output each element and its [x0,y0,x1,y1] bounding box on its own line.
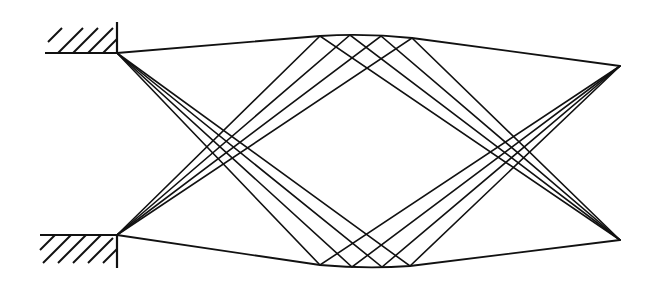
ray-diagram [0,0,656,293]
top-mirror [117,35,620,66]
top-wall [45,22,117,53]
bottom-mirror [117,235,620,267]
bottom-wall [40,235,117,268]
